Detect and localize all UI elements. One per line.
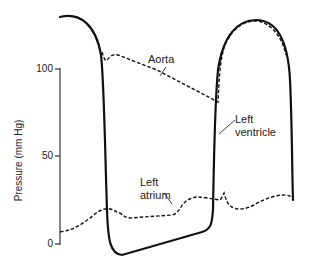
aorta-curve <box>102 21 286 102</box>
left-atrium-label-line2: atrium <box>140 189 171 201</box>
left-ventricle-label-line1: Left <box>235 113 253 125</box>
y-tick-label-50: 50 <box>23 151 53 161</box>
left-atrium-curve <box>60 193 292 232</box>
left-ventricle-label-line2: ventricle <box>235 126 276 138</box>
y-tick-label-100: 100 <box>23 64 53 74</box>
left-atrium-label-line1: Left <box>140 176 158 188</box>
y-axis-label: Pressure (mm Hg) <box>13 101 24 221</box>
y-tick-label-0: 0 <box>23 239 53 249</box>
aorta-label: Aorta <box>148 53 174 65</box>
left-ventricle-leader <box>219 120 235 134</box>
